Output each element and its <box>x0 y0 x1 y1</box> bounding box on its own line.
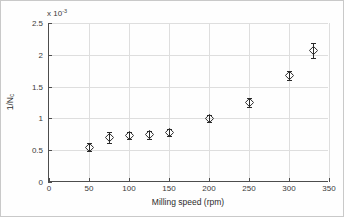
diamond-marker-icon <box>205 114 214 123</box>
gridline-horizontal <box>49 118 328 119</box>
gridline-vertical <box>169 23 170 181</box>
x-axis-tick <box>129 178 130 182</box>
chart-figure: x 10-3 1/Nc Milling speed (rpm) 05010015… <box>0 0 344 217</box>
error-bar-cap <box>247 107 252 108</box>
diamond-marker-icon <box>145 130 154 139</box>
gridline-horizontal <box>49 87 328 88</box>
x-axis-tick <box>249 178 250 182</box>
diamond-marker-icon <box>245 98 254 107</box>
y-axis-tick <box>48 182 52 183</box>
y-axis-tick <box>48 55 52 56</box>
plot-area: 050100150200250300350 00.511.522.5 <box>48 23 328 182</box>
diamond-marker-icon <box>285 71 294 80</box>
x-axis-tick <box>289 178 290 182</box>
x-axis-tick-label: 250 <box>242 184 255 193</box>
error-bar-cap <box>311 58 316 59</box>
y-axis-tick-label: 2.5 <box>32 19 43 28</box>
gridline-horizontal <box>49 55 328 56</box>
error-bar-cap <box>107 143 112 144</box>
x-axis-tick-label: 0 <box>47 184 51 193</box>
y-axis-multiplier-base: x 10 <box>47 9 62 18</box>
diamond-marker-icon <box>85 143 94 152</box>
y-axis-tick-label: 2 <box>39 50 43 59</box>
x-axis-tick <box>169 178 170 182</box>
y-axis-title: 1/Nc <box>5 94 15 110</box>
x-axis-tick <box>89 178 90 182</box>
x-axis-tick <box>209 178 210 182</box>
gridline-vertical <box>329 23 330 181</box>
y-axis-tick <box>48 118 52 119</box>
y-axis-tick-label: 0.5 <box>32 146 43 155</box>
y-axis-title-main: 1/N <box>5 97 15 110</box>
error-bar-cap <box>287 80 292 81</box>
y-axis-title-subscript: c <box>8 94 15 97</box>
gridline-horizontal <box>49 23 328 24</box>
diamond-marker-icon <box>105 133 114 142</box>
y-axis-tick-label: 0 <box>39 178 43 187</box>
diamond-marker-icon <box>309 46 318 55</box>
x-axis-tick-label: 350 <box>322 184 335 193</box>
y-axis-tick <box>48 23 52 24</box>
gridline-vertical <box>289 23 290 181</box>
y-axis-tick-label: 1.5 <box>32 82 43 91</box>
gridline-vertical <box>129 23 130 181</box>
x-axis-tick-label: 100 <box>122 184 135 193</box>
gridline-vertical <box>89 23 90 181</box>
x-axis-tick-label: 300 <box>282 184 295 193</box>
x-axis-title: Milling speed (rpm) <box>48 197 328 207</box>
y-axis-tick <box>48 87 52 88</box>
x-axis-tick-label: 50 <box>85 184 94 193</box>
x-axis-tick-label: 200 <box>202 184 215 193</box>
diamond-marker-icon <box>125 131 134 140</box>
y-axis-multiplier-label: x 10-3 <box>47 8 67 18</box>
y-axis-tick-label: 1 <box>39 114 43 123</box>
gridline-vertical <box>209 23 210 181</box>
x-axis-tick-label: 150 <box>162 184 175 193</box>
y-axis-tick <box>48 150 52 151</box>
diamond-marker-icon <box>165 128 174 137</box>
error-bar-cap <box>311 43 316 44</box>
x-axis-tick <box>329 178 330 182</box>
y-axis-multiplier-exponent: -3 <box>62 8 67 14</box>
